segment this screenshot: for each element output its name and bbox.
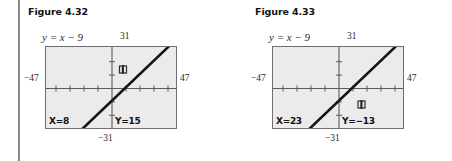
calculator-screen-assembly: y = x − 9 31 −31 −47 47	[255, 21, 427, 149]
y-min-label: −31	[98, 133, 113, 143]
x-min-label: −47	[251, 73, 266, 83]
figure-4-33: Figure 4.33 y = x − 9 31 −31 −47 47	[255, 6, 427, 149]
graph-screen[interactable]: X=8 Y=15	[45, 46, 177, 129]
x-max-label: 47	[407, 73, 417, 83]
equation-label: y = x − 9	[42, 31, 83, 43]
y-max-label: 31	[347, 31, 357, 41]
figure-4-32: Figure 4.32 y = x − 9 31 −31 −47 47	[28, 6, 200, 149]
trace-y-readout: Y=−13	[342, 116, 375, 126]
page-canvas: Figure 4.32 y = x − 9 31 −31 −47 47	[0, 0, 452, 161]
calculator-screen-assembly: y = x − 9 31 −31 −47 47	[28, 21, 200, 149]
trace-y-readout: Y=15	[115, 116, 140, 126]
trace-x-readout: X=23	[276, 116, 302, 126]
figure-title: Figure 4.33	[255, 6, 427, 17]
left-margin-rule	[18, 0, 20, 161]
y-max-label: 31	[120, 31, 130, 41]
figure-title: Figure 4.32	[28, 6, 200, 17]
trace-x-readout: X=8	[49, 116, 69, 126]
x-min-label: −47	[24, 73, 39, 83]
trace-cursor-icon	[120, 65, 127, 74]
y-min-label: −31	[325, 133, 340, 143]
equation-label: y = x − 9	[269, 31, 310, 43]
graph-screen[interactable]: X=23 Y=−13	[272, 46, 404, 129]
trace-cursor-icon	[358, 100, 365, 109]
x-max-label: 47	[180, 73, 190, 83]
